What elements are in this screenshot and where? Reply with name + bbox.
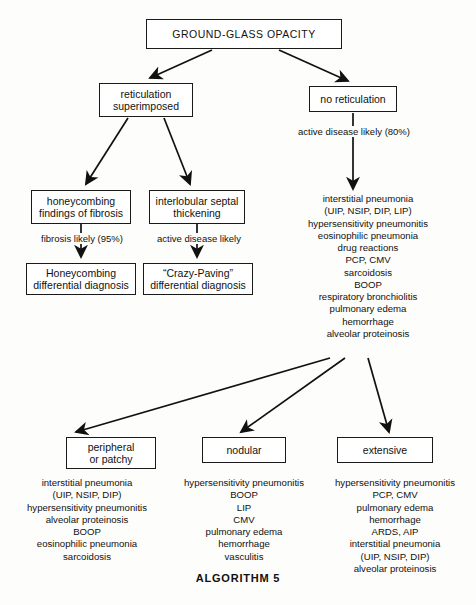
list-item: interstitial pneumonia — [320, 538, 470, 550]
node-reticulation-superimposed: reticulation superimposed — [99, 83, 193, 117]
node-ground-glass-opacity: GROUND-GLASS OPACITY — [146, 19, 342, 49]
list-item: PCP, CMV — [288, 254, 448, 266]
node-label-line2: superimposed — [113, 100, 179, 112]
list-item: interstitial pneumonia — [288, 193, 448, 205]
node-label-line2: differential diagnosis — [150, 279, 246, 291]
node-label: extensive — [363, 444, 407, 456]
list-item: hemorrhage — [167, 538, 321, 550]
edge-root-to-reticulation — [150, 50, 212, 78]
list-peripheral-differential: interstitial pneumonia(UIP, NSIP, DIP)hy… — [14, 477, 160, 563]
node-no-reticulation: no reticulation — [309, 86, 397, 112]
list-item: hypersensitivity pneumonitis — [14, 502, 160, 514]
list-item: hypersensitivity pneumonitis — [167, 477, 321, 489]
list-item: sarcoidosis — [14, 551, 160, 563]
list-item: hemorrhage — [320, 514, 470, 526]
list-item: hypersensitivity pneumonitis — [288, 218, 448, 230]
node-crazy-paving-differential-diagnosis: “Crazy-Paving” differential diagnosis — [143, 263, 253, 295]
list-item: eosinophilic pneumonia — [14, 538, 160, 550]
node-label-line2: findings of fibrosis — [39, 207, 123, 219]
list-item: eosinophilic pneumonia — [288, 230, 448, 242]
edge-list-to-peripheral — [76, 358, 330, 432]
node-label: GROUND-GLASS OPACITY — [172, 28, 315, 40]
list-item: alveolar proteinosis — [14, 514, 160, 526]
list-item: hemorrhage — [288, 316, 448, 328]
node-label-line1: Honeycombing — [46, 267, 116, 279]
edge-list-to-nodular — [241, 358, 345, 432]
edge-reticulation-to-honeycombing — [86, 118, 128, 184]
node-label: nodular — [226, 444, 261, 456]
node-label-line1: reticulation — [121, 88, 172, 100]
list-item: drug reactions — [288, 242, 448, 254]
node-honeycombing-findings: honeycombing findings of fibrosis — [31, 190, 131, 224]
list-item: interstitial pneumonia — [14, 477, 160, 489]
list-item: BOOP — [288, 279, 448, 291]
algorithm-flowchart: GROUND-GLASS OPACITY reticulation superi… — [0, 0, 476, 605]
list-item: pulmonary edema — [320, 502, 470, 514]
list-item: (UIP, NSIP, DIP) — [14, 489, 160, 501]
node-honeycombing-differential-diagnosis: Honeycombing differential diagnosis — [26, 263, 136, 295]
node-label-line1: interlobular septal — [156, 195, 239, 207]
list-item: LIP — [167, 502, 321, 514]
list-item: vasculitis — [167, 551, 321, 563]
list-main-differential: interstitial pneumonia(UIP, NSIP, DIP, L… — [288, 193, 448, 340]
list-extensive-differential: hypersensitivity pneumonitisPCP, CMVpulm… — [320, 477, 470, 575]
list-item: pulmonary edema — [288, 303, 448, 315]
edge-label-fibrosis-likely-95: fibrosis likely (95%) — [23, 233, 141, 244]
list-item: BOOP — [14, 526, 160, 538]
list-item: PCP, CMV — [320, 489, 470, 501]
edge-reticulation-to-septal — [164, 118, 190, 184]
node-label-line2: thickening — [173, 207, 220, 219]
list-item: pulmonary edema — [167, 526, 321, 538]
list-nodular-differential: hypersensitivity pneumonitisBOOPLIPCMVpu… — [167, 477, 321, 563]
list-item: sarcoidosis — [288, 267, 448, 279]
list-item: respiratory bronchiolitis — [288, 291, 448, 303]
list-item: CMV — [167, 514, 321, 526]
edge-label-active-disease-80: active disease likely (80%) — [297, 126, 411, 137]
node-interlobular-septal-thickening: interlobular septal thickening — [149, 190, 245, 224]
node-label-line1: “Crazy-Paving” — [163, 267, 233, 279]
edge-root-to-no-reticulation — [279, 50, 348, 81]
node-label-line2: differential diagnosis — [33, 279, 129, 291]
node-label: no reticulation — [320, 93, 385, 105]
node-extensive: extensive — [337, 437, 433, 463]
edge-label-active-disease-likely: active disease likely — [144, 233, 254, 244]
node-peripheral-or-patchy: peripheral or patchy — [66, 437, 156, 469]
node-label-line1: peripheral — [88, 441, 135, 453]
list-item: alveolar proteinosis — [288, 328, 448, 340]
list-item: (UIP, NSIP, DIP) — [320, 551, 470, 563]
list-item: ARDS, AIP — [320, 526, 470, 538]
algorithm-title: ALGORITHM 5 — [0, 572, 476, 584]
node-nodular: nodular — [202, 437, 286, 463]
list-item: hypersensitivity pneumonitis — [320, 477, 470, 489]
edge-list-to-extensive — [368, 358, 389, 432]
node-label-line2: or patchy — [89, 453, 132, 465]
node-label-line1: honeycombing — [47, 195, 115, 207]
list-item: BOOP — [167, 489, 321, 501]
list-item: (UIP, NSIP, DIP, LIP) — [288, 205, 448, 217]
